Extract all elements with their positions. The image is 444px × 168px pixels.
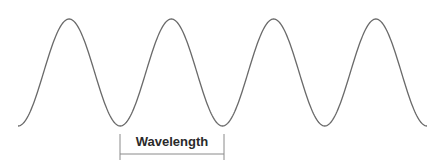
wave-diagram bbox=[0, 0, 444, 168]
sine-wave-curve bbox=[18, 19, 427, 126]
wavelength-label: Wavelength bbox=[136, 134, 208, 149]
